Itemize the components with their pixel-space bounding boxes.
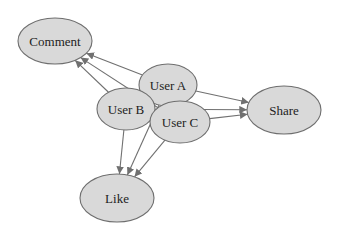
node-label: User C: [162, 115, 198, 130]
node-label: User B: [108, 102, 145, 117]
node-comment: Comment: [18, 18, 92, 64]
edge-user_c-to-share: [210, 114, 248, 118]
edge-user_a-to-comment: [86, 53, 142, 75]
nodes-layer: CommentUser AUser BUser CShareLike: [18, 18, 321, 222]
node-label: Share: [269, 103, 299, 118]
node-user-b: User B: [97, 88, 155, 130]
node-share: Share: [247, 86, 321, 134]
edge-user_a-to-share: [196, 91, 249, 102]
graph-svg: CommentUser AUser BUser CShareLike: [0, 0, 338, 235]
node-user-c: User C: [150, 101, 210, 143]
edge-user_c-to-like: [135, 140, 165, 177]
node-label: Like: [105, 191, 129, 206]
node-label: User A: [150, 78, 187, 93]
node-like: Like: [80, 174, 154, 222]
node-label: Comment: [29, 34, 81, 49]
diagram-canvas: CommentUser AUser BUser CShareLike: [0, 0, 338, 235]
edge-user_b-to-like: [119, 130, 123, 174]
